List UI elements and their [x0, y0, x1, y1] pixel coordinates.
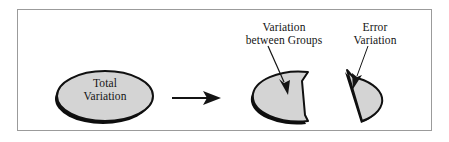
total-variation-label: Total Variation: [67, 77, 143, 102]
error-variation-label: Error Variation: [340, 21, 410, 46]
variation-partition-figure: Total Variation Variation between Groups…: [0, 0, 449, 142]
transition-arrow-icon: [172, 91, 221, 105]
error-variation-shape: [345, 70, 382, 123]
error-variation-wedge: [347, 70, 382, 121]
between-groups-label: Variation between Groups: [232, 21, 336, 46]
